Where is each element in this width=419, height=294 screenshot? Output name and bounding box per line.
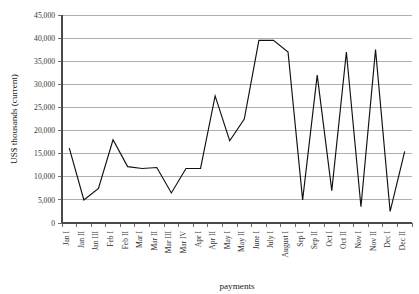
y-tick-label: 45,000 — [34, 11, 55, 20]
x-tick-label: Apr I — [194, 231, 203, 248]
x-tick-label: Nov I — [354, 231, 363, 249]
y-tick-label: 15,000 — [34, 149, 55, 158]
x-tick-label: Feb I — [106, 231, 115, 247]
y-tick-label: 25,000 — [34, 103, 55, 112]
x-tick-label: Sep I — [296, 231, 305, 247]
x-tick-label: Dec I — [383, 231, 392, 248]
y-tick-label: 0 — [51, 219, 55, 228]
x-tick-label: Nov II — [369, 231, 378, 252]
y-axis-title: US$ thousands (current) — [9, 74, 19, 164]
x-tick-label: Dec II — [398, 231, 407, 251]
x-tick-label: Mar III — [164, 231, 173, 254]
x-tick-label: Mar II — [150, 231, 159, 251]
x-tick-label: Oct II — [339, 231, 348, 249]
y-tick-label: 10,000 — [34, 172, 55, 181]
x-tick-label: August I — [281, 231, 290, 258]
x-tick-label: Jan I — [62, 231, 71, 246]
x-tick-label: May I — [223, 231, 232, 250]
x-tick-label: Jan III — [91, 231, 100, 251]
x-tick-label: Jan II — [77, 231, 86, 249]
x-tick-label: July I — [266, 231, 275, 249]
x-tick-label: Sep II — [310, 231, 319, 250]
x-tick-label: Apr II — [208, 231, 217, 250]
y-tick-label: 40,000 — [34, 34, 55, 43]
x-tick-label: Oct I — [325, 231, 334, 247]
y-tick-label: 5,000 — [38, 196, 55, 205]
line-chart-canvas: 05,00010,00015,00020,00025,00030,00035,0… — [0, 0, 419, 294]
x-tick-label: June I — [252, 231, 261, 250]
y-tick-label: 30,000 — [34, 80, 55, 89]
y-tick-label: 35,000 — [34, 57, 55, 66]
x-tick-label: Feb II — [121, 231, 130, 250]
y-tick-label: 20,000 — [34, 126, 55, 135]
chart-figure: 05,00010,00015,00020,00025,00030,00035,0… — [0, 0, 419, 294]
x-tick-label: May II — [237, 231, 246, 252]
x-tick-label: Mar I — [135, 231, 144, 249]
x-axis-title: payments — [219, 281, 255, 291]
x-tick-label: Mar IV — [179, 230, 188, 253]
